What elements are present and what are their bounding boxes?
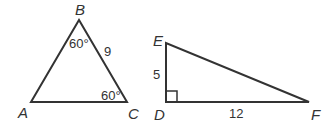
- vertex-label-f: F: [311, 106, 321, 123]
- vertex-label-d: D: [154, 106, 165, 123]
- diagram-canvas: B A C 60° 60° 9 E D F 5 12: [0, 0, 329, 131]
- side-bc-label: 9: [104, 44, 111, 59]
- triangle-def: E D F 5 12: [153, 32, 321, 123]
- right-angle-marker: [166, 91, 177, 102]
- vertex-label-b: B: [75, 1, 85, 18]
- triangle-abc: B A C 60° 60° 9: [17, 1, 139, 122]
- angle-c-label: 60°: [101, 88, 121, 103]
- angle-b-label: 60°: [69, 36, 89, 51]
- vertex-label-c: C: [128, 105, 139, 122]
- side-df-label: 12: [229, 106, 243, 121]
- triangle-def-outline: [166, 43, 309, 102]
- side-de-label: 5: [153, 67, 160, 82]
- vertex-label-e: E: [153, 32, 164, 49]
- vertex-label-a: A: [17, 104, 28, 121]
